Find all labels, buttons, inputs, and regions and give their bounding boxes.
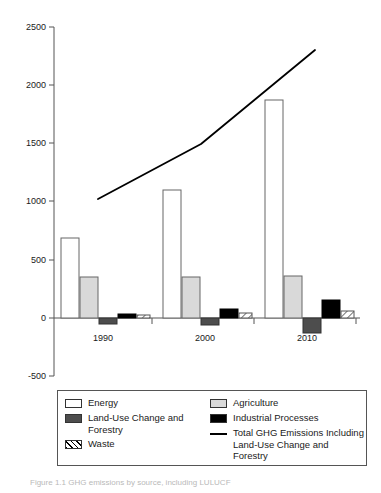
bar-2010-industrial-processes <box>322 300 340 318</box>
x-axis-ticks <box>152 318 356 324</box>
legend-item-industrial-processes: Industrial Processes <box>210 412 365 424</box>
chart-figure: 2500 2000 1500 1000 500 0 -500 <box>0 0 381 493</box>
bar-1990-energy <box>61 238 79 318</box>
bar-group-1990 <box>61 238 150 324</box>
y-tick-label-1500: 1500 <box>26 138 46 148</box>
bar-2000-energy <box>163 190 181 318</box>
land-use-change-swatch <box>65 414 82 423</box>
legend-item-agriculture: Agriculture <box>210 397 365 409</box>
legend-label-total-ghg: Total GHG Emissions Including Land-Use C… <box>233 427 365 462</box>
y-tick-label-0: 0 <box>41 313 46 323</box>
bar-2010-land-use-change <box>303 318 321 333</box>
bar-1990-waste <box>137 315 150 318</box>
bar-2000-agriculture <box>182 277 200 318</box>
bar-2000-land-use-change <box>201 318 219 325</box>
y-axis-ticks <box>49 27 54 376</box>
bar-group-2010 <box>265 100 354 333</box>
legend-label-industrial-processes: Industrial Processes <box>233 412 319 424</box>
legend-label-land-use-change: Land-Use Change and Forestry <box>88 412 205 435</box>
legend-column-left: Energy Land-Use Change and Forestry Wast… <box>65 397 205 453</box>
bar-2010-waste <box>341 311 354 318</box>
bar-2000-waste <box>239 313 252 318</box>
total-ghg-line-swatch <box>210 429 227 438</box>
legend-item-total-ghg: Total GHG Emissions Including Land-Use C… <box>210 427 365 462</box>
figure-caption: Figure 1.1 GHG emissions by source, incl… <box>30 478 360 488</box>
bar-1990-agriculture <box>80 277 98 318</box>
y-tick-label-1000: 1000 <box>26 196 46 206</box>
legend-label-agriculture: Agriculture <box>233 397 278 409</box>
y-tick-label-2000: 2000 <box>26 80 46 90</box>
legend-label-energy: Energy <box>88 397 118 409</box>
energy-swatch <box>65 399 82 408</box>
chart-svg: 2500 2000 1500 1000 500 0 -500 <box>0 0 381 390</box>
bar-1990-land-use-change <box>99 318 117 324</box>
legend-item-energy: Energy <box>65 397 205 409</box>
legend-column-right: Agriculture Industrial Processes Total G… <box>210 397 365 465</box>
chart-legend: Energy Land-Use Change and Forestry Wast… <box>57 390 367 466</box>
waste-swatch <box>65 440 82 449</box>
legend-label-waste: Waste <box>88 438 115 450</box>
bar-2000-industrial-processes <box>220 309 238 318</box>
y-tick-label-minus500: -500 <box>28 371 46 381</box>
x-tick-label-2010: 2010 <box>297 333 317 343</box>
x-tick-label-2000: 2000 <box>195 333 215 343</box>
bar-1990-industrial-processes <box>118 314 136 318</box>
industrial-processes-swatch <box>210 414 227 423</box>
x-tick-label-1990: 1990 <box>93 333 113 343</box>
bar-2010-agriculture <box>284 276 302 318</box>
legend-item-land-use-change: Land-Use Change and Forestry <box>65 412 205 435</box>
bar-group-2000 <box>163 190 252 325</box>
y-tick-label-2500: 2500 <box>26 22 46 32</box>
plot-area: 2500 2000 1500 1000 500 0 -500 <box>0 0 381 390</box>
legend-item-waste: Waste <box>65 438 205 450</box>
agriculture-swatch <box>210 399 227 408</box>
y-tick-label-500: 500 <box>31 255 46 265</box>
bar-2010-energy <box>265 100 283 318</box>
